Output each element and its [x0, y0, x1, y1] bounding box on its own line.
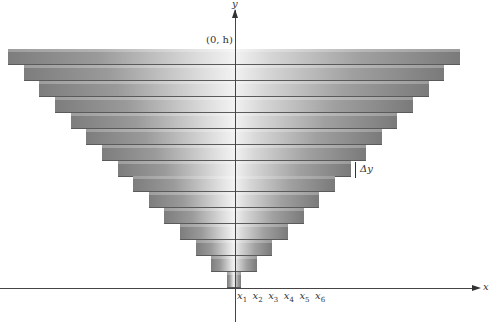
slab — [24, 65, 445, 81]
slab — [102, 145, 366, 161]
x-tick-label: x6 — [315, 290, 325, 304]
slab — [211, 256, 256, 272]
slab — [55, 97, 413, 113]
x-axis-label: x — [483, 281, 489, 292]
slab — [71, 113, 398, 129]
volume-slab-diagram: x y (0, h) Δy x1x2x3x4x5x6 — [0, 0, 489, 322]
slab — [164, 208, 303, 224]
delta-y-bracket — [355, 162, 356, 178]
y-axis — [235, 10, 236, 322]
slab — [149, 192, 319, 208]
slab — [118, 161, 351, 177]
slab — [133, 176, 335, 192]
x-tick-label: x3 — [268, 290, 278, 304]
x-tick-label: x4 — [284, 290, 294, 304]
slab — [227, 272, 241, 288]
slab — [180, 224, 288, 240]
slab — [196, 240, 273, 256]
x-tick-label: x5 — [299, 290, 309, 304]
x-axis-arrow-icon — [472, 285, 481, 291]
slab — [8, 49, 460, 65]
slab — [86, 129, 382, 145]
slab — [39, 81, 428, 97]
y-axis-arrow-icon — [232, 9, 238, 18]
point-label-0-h: (0, h) — [206, 34, 233, 45]
x-tick-label: x1 — [237, 290, 247, 304]
x-axis — [0, 288, 475, 289]
y-axis-label: y — [232, 0, 238, 9]
x-tick-label: x2 — [253, 290, 263, 304]
delta-y-label: Δy — [360, 163, 373, 174]
